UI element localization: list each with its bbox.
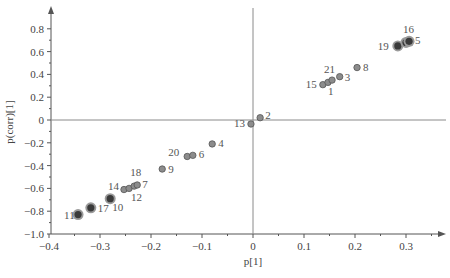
- point-label: 1: [328, 85, 334, 97]
- point-marker: [337, 73, 343, 79]
- data-point: 17: [85, 202, 109, 214]
- x-tick-label: 0.2: [348, 240, 362, 252]
- y-axis-title: p(corr)[1]: [3, 100, 16, 143]
- data-point: 4: [209, 137, 224, 149]
- data-point: 20: [168, 146, 190, 159]
- point-marker: [405, 38, 412, 45]
- data-point: 5: [404, 34, 422, 47]
- point-label: 2: [265, 109, 271, 121]
- point-label: 8: [363, 61, 369, 73]
- point-label: 15: [306, 78, 318, 90]
- x-tick-label: −0.4: [39, 240, 59, 252]
- point-label: 12: [131, 191, 142, 203]
- data-point: 7: [134, 178, 148, 190]
- point-marker: [159, 166, 165, 172]
- point-marker: [329, 77, 335, 83]
- point-label: 6: [199, 148, 205, 160]
- point-marker: [394, 42, 401, 49]
- point-label: 3: [345, 71, 351, 83]
- scatter-plot: 0.80.60.40.20−0.2−0.4−0.6−0.8−1.0−0.4−0.…: [0, 0, 450, 278]
- point-label: 21: [324, 63, 335, 75]
- data-point: 6: [190, 148, 205, 160]
- y-tick-label: −0.8: [24, 205, 44, 217]
- y-tick-label: 0: [39, 114, 45, 126]
- data-point: 11: [64, 209, 84, 221]
- point-label: 13: [234, 117, 246, 129]
- point-marker: [354, 64, 360, 70]
- point-label: 4: [218, 137, 224, 149]
- point-label: 11: [64, 209, 75, 221]
- y-tick-label: 0.4: [30, 68, 44, 80]
- point-label: 16: [403, 23, 415, 35]
- point-marker: [190, 152, 196, 158]
- point-label: 18: [130, 166, 142, 178]
- point-label: 20: [168, 146, 180, 158]
- data-point: 8: [354, 61, 369, 73]
- x-tick-label: −0.3: [90, 240, 110, 252]
- point-label: 10: [112, 201, 124, 213]
- x-tick-label: −0.1: [192, 240, 212, 252]
- point-marker: [87, 204, 94, 211]
- x-axis-title: p[1]: [244, 255, 262, 267]
- point-label: 5: [415, 34, 421, 46]
- data-point: 9: [159, 163, 174, 175]
- y-tick-label: 0.8: [30, 23, 44, 35]
- y-tick-label: −1.0: [24, 228, 44, 240]
- point-marker: [74, 211, 81, 218]
- data-point: 3: [337, 71, 351, 83]
- x-axis-arrow-icon: [438, 231, 446, 237]
- point-marker: [257, 115, 263, 121]
- point-label: 17: [98, 202, 110, 214]
- data-point: 19: [378, 40, 404, 52]
- x-tick-label: 0.3: [399, 240, 413, 252]
- x-tick-label: 0.1: [297, 240, 311, 252]
- point-marker: [209, 141, 215, 147]
- data-point: 14: [108, 180, 127, 193]
- y-tick-label: 0.2: [30, 91, 44, 103]
- data-point: 15: [306, 78, 326, 90]
- x-tick-label: 0: [250, 240, 256, 252]
- y-tick-label: −0.2: [24, 137, 44, 149]
- data-point: 13: [234, 117, 254, 129]
- data-points: 111710141218792064132151213819165: [64, 23, 421, 220]
- x-tick-label: −0.2: [141, 240, 161, 252]
- point-marker: [134, 182, 140, 188]
- data-point: 2: [257, 109, 271, 121]
- y-tick-label: −0.4: [24, 160, 44, 172]
- point-label: 7: [142, 178, 148, 190]
- point-label: 19: [378, 40, 390, 52]
- y-tick-label: 0.6: [30, 46, 44, 58]
- y-tick-label: −0.6: [24, 182, 44, 194]
- point-label: 9: [168, 163, 174, 175]
- point-label: 14: [108, 180, 120, 192]
- point-marker: [248, 121, 254, 127]
- y-axis-arrow-icon: [48, 6, 54, 14]
